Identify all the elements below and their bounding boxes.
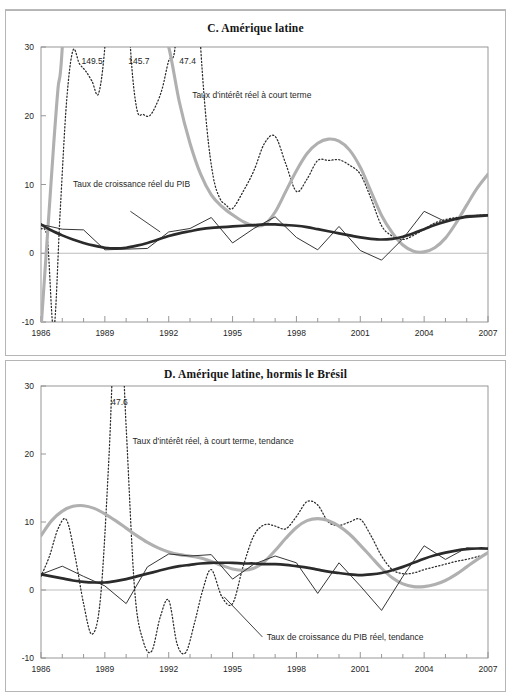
value-annotation: 149.5 (81, 56, 103, 66)
series-line (41, 11, 488, 329)
x-axis-tick-label: 2004 (415, 664, 434, 674)
x-axis-tick-label: 2001 (351, 328, 370, 338)
label-leader-line (130, 211, 160, 232)
x-axis-tick-label: 1995 (223, 328, 242, 338)
series-line (41, 11, 488, 329)
panel-d-plot: 3020100-10198619891992199519982001200420… (6, 361, 505, 691)
x-axis-tick-label: 2001 (351, 664, 370, 674)
x-axis-tick-label: 1989 (95, 664, 114, 674)
series-label: Taux de croissance du PIB réel, tendance (267, 632, 424, 642)
value-annotation: 47.4 (179, 56, 196, 66)
x-axis-tick-label: 1992 (159, 328, 178, 338)
chart-panel-d: D. Amérique latine, hormis le Brésil 302… (5, 360, 506, 692)
value-annotation: 47.6 (111, 397, 128, 407)
series-label: Taux de croissance réel du PIB (73, 179, 191, 189)
series-line (41, 546, 488, 611)
y-axis-tick-label: -10 (22, 653, 35, 663)
chart-panel-c: C. Amérique latine 3020100-1019861989199… (5, 10, 506, 356)
x-axis-tick-label: 1995 (223, 664, 242, 674)
x-axis-tick-label: 1986 (32, 328, 51, 338)
y-axis-tick-label: 30 (25, 381, 35, 391)
series-label: Taux d'intérêt réel, à court terme, tend… (133, 436, 295, 446)
x-axis-tick-label: 1986 (32, 664, 51, 674)
series-line (41, 215, 488, 248)
x-axis-tick-label: 1989 (95, 328, 114, 338)
series-line (41, 361, 488, 654)
page-cutoff-text (0, 0, 511, 8)
y-axis-tick-label: -10 (22, 317, 35, 327)
label-leader-line (224, 597, 262, 637)
y-axis-tick-label: 0 (29, 585, 34, 595)
series-line (41, 548, 488, 582)
series-line (41, 506, 488, 587)
series-label: Taux d'intérêt réel à court terme (192, 90, 312, 100)
y-axis-tick-label: 20 (25, 449, 35, 459)
x-axis-tick-label: 2007 (479, 328, 498, 338)
x-axis-tick-label: 2004 (415, 328, 434, 338)
panel-c-plot: 3020100-10198619891992199519982001200420… (6, 11, 505, 355)
value-annotation: 145.7 (128, 56, 150, 66)
y-axis-tick-label: 0 (29, 248, 34, 258)
x-axis-tick-label: 1998 (287, 664, 306, 674)
x-axis-tick-label: 1992 (159, 664, 178, 674)
x-axis-tick-label: 2007 (479, 664, 498, 674)
y-axis-tick-label: 10 (25, 517, 35, 527)
x-axis-tick-label: 1998 (287, 328, 306, 338)
y-axis-tick-label: 10 (25, 180, 35, 190)
y-axis-tick-label: 20 (25, 111, 35, 121)
y-axis-tick-label: 30 (25, 42, 35, 52)
